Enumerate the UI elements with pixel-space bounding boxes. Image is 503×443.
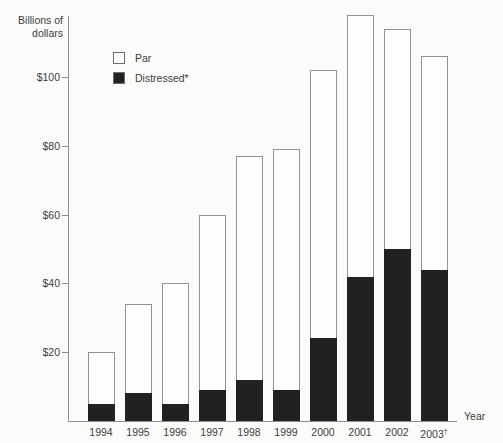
legend: Par Distressed* [113,52,189,92]
y-tick-label: $40 [16,277,60,289]
y-axis-title-line1: Billions of [0,14,63,27]
bar-distressed-2001 [347,277,374,421]
y-tick-mark [62,352,68,353]
bar-distressed-1994 [88,404,115,421]
bar-distressed-1998 [236,380,263,421]
x-tick-label-2001: 2001 [341,426,379,438]
legend-item-par: Par [113,52,189,64]
bar-distressed-1995 [125,393,152,421]
par-swatch-icon [113,52,125,64]
bar-par-1996 [162,283,189,421]
bar-distressed-2000 [310,338,337,421]
x-axis-title: Year [464,410,485,422]
x-tick-label-2003: 2003† [415,426,453,438]
legend-label-distressed: Distressed* [135,72,189,84]
x-tick-label-1996: 1996 [156,426,194,438]
y-tick-label: $100 [16,71,60,83]
bar-par-1999 [273,149,300,421]
distressed-swatch-icon [113,72,125,84]
bar-distressed-1996 [162,404,189,421]
x-tick-label-1995: 1995 [119,426,157,438]
legend-label-par: Par [135,52,151,64]
x-tick-label-1994: 1994 [82,426,120,438]
x-tick-label-1997: 1997 [193,426,231,438]
y-axis-line [68,16,69,422]
x-tick-label-2002: 2002 [378,426,416,438]
y-axis-title: Billions of dollars [0,14,63,40]
y-tick-label: $80 [16,140,60,152]
x-tick-label-2000: 2000 [304,426,342,438]
x-tick-superscript: † [444,428,448,435]
stacked-bar-chart: Billions of dollars Par Distressed* $20$… [0,0,503,443]
y-tick-mark [62,215,68,216]
bar-distressed-2003 [421,270,448,421]
bar-distressed-1997 [199,390,226,421]
x-tick-label-1998: 1998 [230,426,268,438]
x-axis-line [68,421,457,422]
bar-distressed-2002 [384,249,411,421]
y-tick-label: $20 [16,346,60,358]
y-tick-mark [62,146,68,147]
y-tick-mark [62,77,68,78]
legend-item-distressed: Distressed* [113,72,189,84]
y-tick-label: $60 [16,209,60,221]
x-tick-label-1999: 1999 [267,426,305,438]
bar-distressed-1999 [273,390,300,421]
y-tick-mark [62,283,68,284]
y-axis-title-line2: dollars [0,27,63,40]
